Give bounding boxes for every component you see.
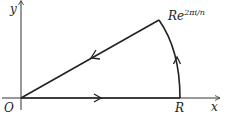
- R-label: R: [174, 101, 184, 115]
- y-axis-label: y: [9, 2, 17, 16]
- origin-label: O: [4, 101, 14, 115]
- corner-label-base: Re: [167, 9, 184, 23]
- x-axis-label: x: [211, 100, 218, 114]
- corner-label: Re2πi/n: [167, 8, 205, 23]
- corner-label-exponent: 2πi/n: [183, 8, 205, 17]
- contour-arc: [159, 20, 180, 98]
- contour-ray: [21, 20, 159, 98]
- contour-diagram: y O R x Re2πi/n: [0, 0, 248, 119]
